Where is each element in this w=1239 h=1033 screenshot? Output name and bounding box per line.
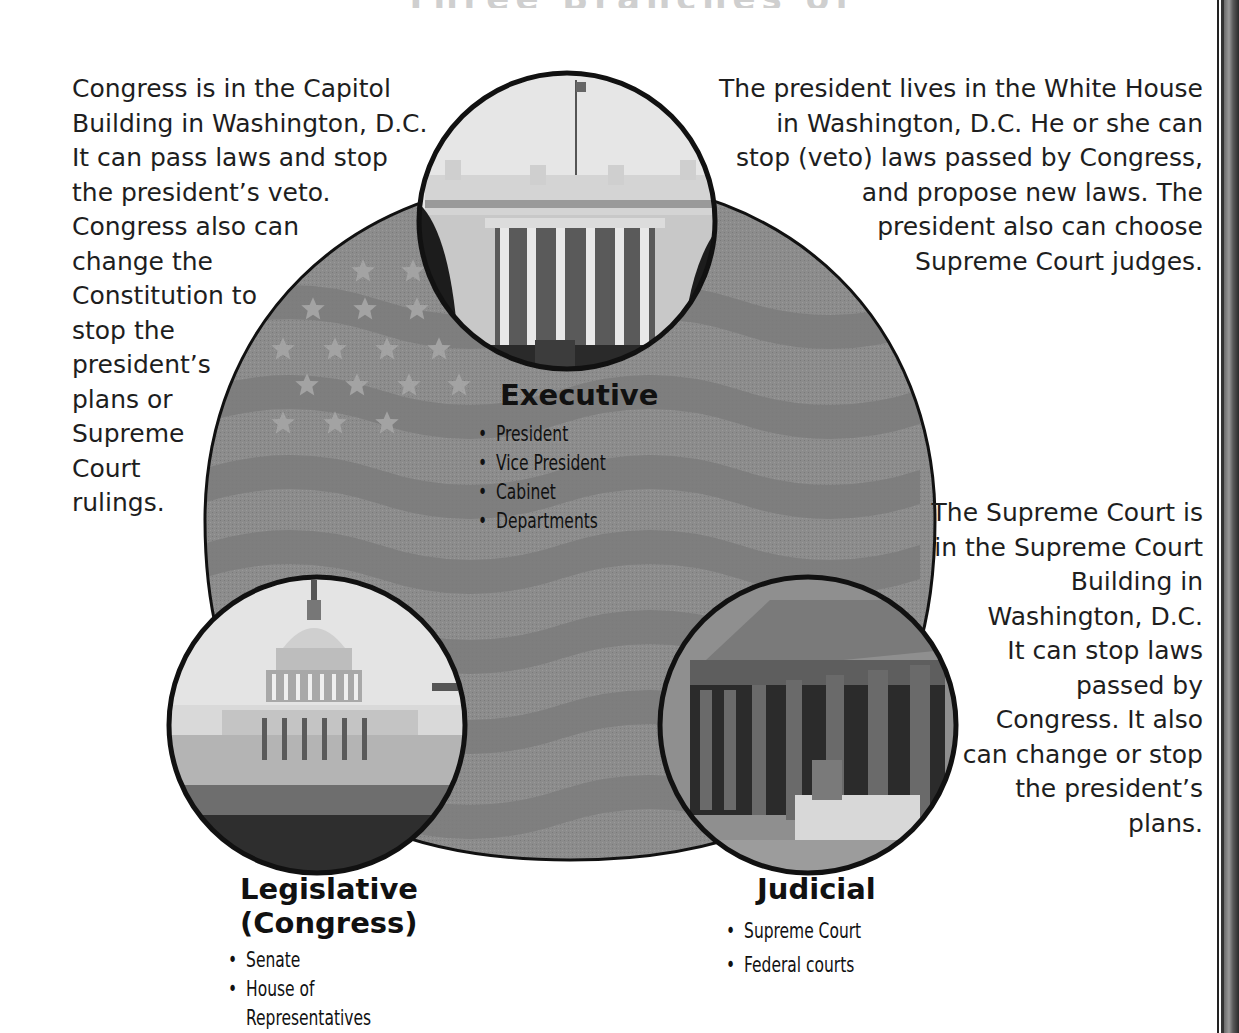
list-item: Senate — [228, 946, 371, 975]
list-item-continuation: Representatives — [228, 1004, 371, 1033]
list-item: House of — [228, 975, 371, 1004]
list-item: Departments — [478, 507, 606, 536]
list-item: Cabinet — [478, 478, 606, 507]
president-description: The president lives in the White House i… — [683, 72, 1203, 279]
judicial-list: Supreme Court Federal courts — [726, 914, 891, 982]
executive-title: Executive — [500, 378, 658, 412]
executive-list: President Vice President Cabinet Departm… — [478, 420, 634, 536]
page-edge-border — [1215, 0, 1239, 1033]
legislative-title: Legislative (Congress) — [240, 872, 418, 940]
congress-description: Congress is in the Capitol Building in W… — [72, 72, 412, 521]
legislative-list: Senate House of Representatives — [228, 946, 402, 1033]
list-item: Vice President — [478, 449, 606, 478]
supreme-court-description: The Supreme Court is in the Supreme Cour… — [903, 496, 1203, 841]
list-item: President — [478, 420, 606, 449]
list-item: Federal courts — [726, 948, 861, 982]
judicial-title: Judicial — [757, 872, 876, 906]
list-item: Supreme Court — [726, 914, 861, 948]
